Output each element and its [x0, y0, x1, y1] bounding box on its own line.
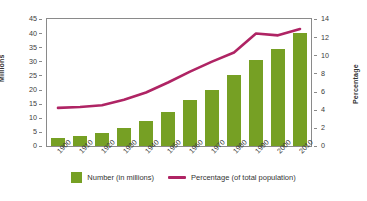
- legend-label-percentage: Percentage (of total population): [191, 173, 296, 182]
- y-axis-right-tick-mark: [314, 73, 317, 74]
- plot-area: [46, 18, 312, 147]
- y-axis-left-tick-label: 35: [29, 44, 37, 51]
- y-axis-left-title: Millions: [0, 54, 5, 82]
- y-axis-left-tick-label: 45: [29, 15, 37, 22]
- y-axis-left-tick-mark: [39, 118, 42, 119]
- y-axis-right-tick-label: 4: [321, 106, 325, 113]
- y-axis-right-tick-mark: [314, 92, 317, 93]
- legend-label-number: Number (in millions): [87, 173, 154, 182]
- y-axis-left-ticks: 051015202530354045: [16, 18, 42, 147]
- chart-legend: Number (in millions) Percentage (of tota…: [0, 172, 367, 183]
- y-axis-right-tick-mark: [314, 19, 317, 20]
- y-axis-left-tick-mark: [39, 61, 42, 62]
- y-axis-left-tick-label: 20: [29, 86, 37, 93]
- y-axis-right-tick-label: 0: [321, 142, 325, 149]
- y-axis-left-tick-mark: [39, 33, 42, 34]
- y-axis-right-tick-label: 14: [321, 15, 329, 22]
- y-axis-right-tick-label: 8: [321, 70, 325, 77]
- y-axis-left-tick-mark: [39, 132, 42, 133]
- y-axis-right-tick-label: 12: [321, 34, 329, 41]
- green-square-icon: [71, 172, 82, 183]
- chart-container: Millions Percentage 051015202530354045 0…: [0, 0, 367, 201]
- y-axis-left-tick-mark: [39, 104, 42, 105]
- y-axis-right-ticks: 02468101214: [314, 18, 340, 147]
- plot-inner: [47, 19, 311, 146]
- y-axis-left-tick-mark: [39, 47, 42, 48]
- y-axis-right-tick-mark: [314, 146, 317, 147]
- y-axis-left-tick-mark: [39, 146, 42, 147]
- y-axis-left-tick-label: 25: [29, 72, 37, 79]
- y-axis-right-tick-mark: [314, 55, 317, 56]
- y-axis-left-tick-label: 15: [29, 100, 37, 107]
- y-axis-left-tick-label: 10: [29, 114, 37, 121]
- y-axis-left-tick-label: 40: [29, 30, 37, 37]
- line-series-layer: [47, 19, 311, 146]
- y-axis-right-tick-mark: [314, 37, 317, 38]
- y-axis-right-tick-label: 10: [321, 52, 329, 59]
- y-axis-right-title: Percentage: [352, 64, 359, 104]
- y-axis-left-tick-mark: [39, 75, 42, 76]
- y-axis-right-tick-mark: [314, 128, 317, 129]
- y-axis-left-tick-mark: [39, 90, 42, 91]
- percentage-line: [58, 29, 300, 108]
- magenta-line-icon: [168, 176, 186, 179]
- legend-item-number: Number (in millions): [71, 172, 154, 183]
- y-axis-right-tick-label: 2: [321, 124, 325, 131]
- y-axis-left-tick-label: 30: [29, 58, 37, 65]
- y-axis-right-tick-label: 6: [321, 88, 325, 95]
- y-axis-left-tick-mark: [39, 19, 42, 20]
- legend-item-percentage: Percentage (of total population): [168, 173, 296, 182]
- y-axis-left-tick-label: 0: [33, 142, 37, 149]
- y-axis-left-tick-label: 5: [33, 128, 37, 135]
- y-axis-right-tick-mark: [314, 110, 317, 111]
